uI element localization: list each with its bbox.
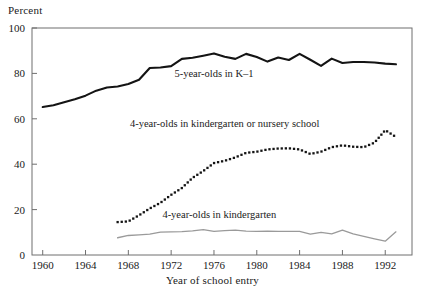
series-dot (217, 161, 219, 163)
series-dot (328, 147, 330, 149)
series-dot (150, 207, 152, 209)
x-axis-tick-label: 1960 (32, 259, 55, 271)
series-dot (281, 147, 283, 149)
series-dot (348, 145, 350, 147)
x-axis-tick-label: 1992 (374, 259, 396, 271)
series-dot (184, 184, 186, 186)
series-dot (272, 148, 274, 150)
series-dot (297, 148, 299, 150)
series-dot (320, 150, 322, 152)
series-dot (244, 152, 246, 154)
series-line-2 (118, 230, 396, 242)
series-dot (125, 220, 127, 222)
series-dot (360, 146, 362, 148)
series-dot (174, 191, 176, 193)
series-dot (260, 150, 262, 152)
series-dot (210, 164, 212, 166)
series-dot (356, 146, 358, 148)
series-dot (170, 194, 172, 196)
chart-plot-area: 0204060801001960196419681972197619801984… (0, 0, 425, 295)
x-axis-tick-label: 1972 (160, 259, 182, 271)
series-dot (386, 130, 388, 132)
x-axis-tick-label: 1976 (203, 259, 226, 271)
series-dot (380, 134, 382, 136)
y-axis-tick-label: 80 (14, 67, 26, 79)
y-axis-tick-label: 0 (20, 249, 26, 261)
series-dot (203, 169, 205, 171)
series-dot (340, 144, 342, 146)
series-dot (233, 157, 235, 159)
series-dot (187, 181, 189, 183)
series-dot (312, 152, 314, 154)
series-dot (240, 154, 242, 156)
series-line-0 (43, 53, 396, 107)
series-dot (237, 155, 239, 157)
x-axis-tick-label: 1964 (75, 259, 98, 271)
series-dot (378, 137, 380, 139)
series-dot (200, 171, 202, 173)
series-dot (368, 144, 370, 146)
series-dot (336, 145, 338, 147)
series-dot (301, 149, 303, 151)
series-dot (116, 221, 118, 223)
series-dot (285, 147, 287, 149)
series-dot (132, 217, 134, 219)
series-dot (393, 135, 395, 137)
series-dot (143, 211, 145, 213)
series-dot (293, 148, 295, 150)
series-dot (268, 148, 270, 150)
series-dot (136, 215, 138, 217)
series-dot (167, 196, 169, 198)
series-dot (305, 151, 307, 153)
series-dot (221, 160, 223, 162)
series-dot (389, 132, 391, 134)
series-dot (146, 209, 148, 211)
series-dot (316, 151, 318, 153)
series-dot (160, 201, 162, 203)
x-axis-tick-label: 1968 (117, 259, 140, 271)
series-dot (164, 198, 166, 200)
series-dot (229, 158, 231, 160)
series-dot (364, 145, 366, 147)
series-label-1: 4-year-olds in kindergarten or nursery s… (130, 118, 319, 129)
series-dot (213, 162, 215, 164)
y-axis-tick-label: 40 (14, 158, 26, 170)
y-axis-tick-label: 20 (14, 204, 26, 216)
y-axis-tick-label: 100 (9, 22, 26, 34)
series-dot (129, 219, 131, 221)
series-dot (121, 221, 123, 223)
series-dot (153, 205, 155, 207)
series-dot (177, 189, 179, 191)
series-dot (190, 178, 192, 180)
series-dot (181, 187, 183, 189)
series-dot (252, 151, 254, 153)
series-dot (256, 150, 258, 152)
series-dot (225, 159, 227, 161)
series-dot (248, 151, 250, 153)
series-dot (352, 146, 354, 148)
series-dot (264, 149, 266, 151)
series-dot (157, 203, 159, 205)
chart-figure: Percent 02040608010019601964196819721976… (0, 0, 425, 295)
series-dot (344, 145, 346, 147)
series-dot (372, 142, 374, 144)
x-axis-tick-label: 1980 (246, 259, 269, 271)
series-dot (375, 140, 377, 142)
series-dot (139, 213, 141, 215)
series-dot (324, 149, 326, 151)
y-axis-tick-label: 60 (14, 113, 26, 125)
series-dot (383, 130, 385, 132)
series-label-2: 4-year-olds in kindergarten (162, 209, 277, 220)
series-dot (193, 176, 195, 178)
x-axis-title: Year of school entry (0, 274, 425, 286)
x-axis-tick-label: 1988 (331, 259, 354, 271)
series-dot (206, 167, 208, 169)
series-dot (332, 146, 334, 148)
x-axis-tick-label: 1984 (289, 259, 312, 271)
series-label-0: 5-year-olds in K–1 (174, 68, 253, 79)
series-dot (277, 147, 279, 149)
series-dot (289, 147, 291, 149)
series-dot (196, 174, 198, 176)
series-dot (308, 153, 310, 155)
